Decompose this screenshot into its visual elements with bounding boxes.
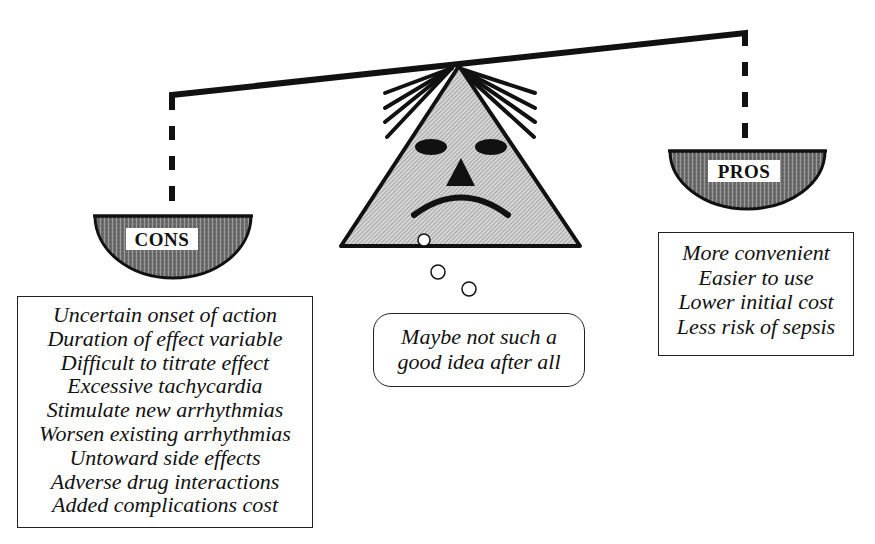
- pros-item: Easier to use: [659, 266, 853, 291]
- cons-label: CONS: [126, 228, 198, 250]
- cons-item: Adverse drug interactions: [18, 470, 312, 494]
- pros-list-box: More convenient Easier to use Lower init…: [658, 232, 854, 356]
- cons-item: Stimulate new arrhythmias: [18, 398, 312, 422]
- cons-item: Added complications cost: [18, 493, 312, 517]
- right-eye-icon: [475, 139, 507, 155]
- cons-item: Excessive tachycardia: [18, 374, 312, 398]
- thought-line: good idea after all: [374, 349, 584, 374]
- pros-item: Less risk of sepsis: [659, 315, 853, 340]
- cons-item: Untoward side effects: [18, 446, 312, 470]
- cons-item: Worsen existing arrhythmias: [18, 422, 312, 446]
- worried-face-icon: [341, 66, 580, 246]
- pros-item: More convenient: [659, 241, 853, 266]
- cons-item: Uncertain onset of action: [18, 303, 312, 327]
- thought-bubble: Maybe not such a good idea after all: [373, 313, 585, 387]
- thought-line: Maybe not such a: [374, 324, 584, 349]
- pros-label: PROS: [708, 160, 780, 182]
- cons-list-box: Uncertain onset of action Duration of ef…: [17, 296, 313, 528]
- pros-item: Lower initial cost: [659, 290, 853, 315]
- cons-item: Difficult to titrate effect: [18, 351, 312, 375]
- cons-item: Duration of effect variable: [18, 327, 312, 351]
- left-eye-icon: [415, 139, 447, 155]
